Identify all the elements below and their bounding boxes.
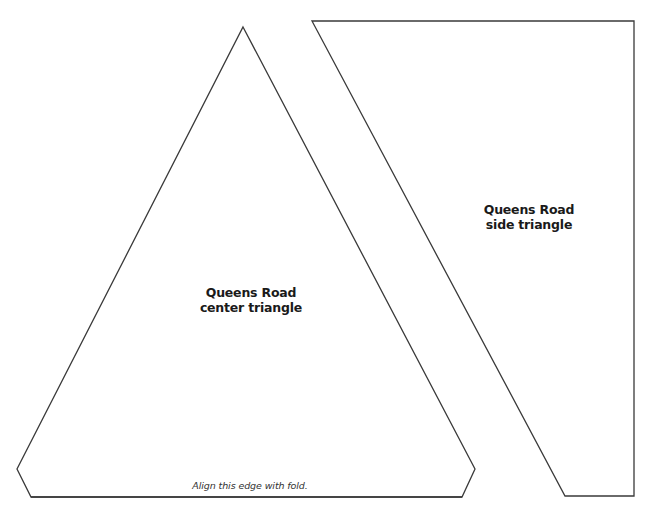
side-triangle-title-line1: Queens Road (464, 202, 594, 217)
center-triangle-title-line2: center triangle (186, 300, 316, 315)
center-triangle-label: Queens Road center triangle (186, 285, 316, 315)
side-triangle-label: Queens Road side triangle (464, 202, 594, 232)
fold-instruction: Align this edge with fold. (160, 480, 340, 491)
side-triangle-title-line2: side triangle (464, 217, 594, 232)
pattern-canvas (0, 0, 654, 524)
center-triangle-title-line1: Queens Road (186, 285, 316, 300)
